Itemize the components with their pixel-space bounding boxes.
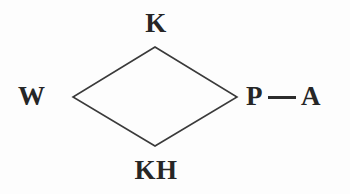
right-node-cluster: P A (246, 83, 321, 110)
node-label-left-w: W (18, 83, 46, 110)
connector-dash-icon (268, 96, 296, 99)
node-label-top-k: K (0, 10, 312, 37)
node-label-right-p: P (246, 83, 263, 110)
diagram-canvas: K W KH P A (0, 0, 350, 194)
node-label-bottom-kh: KH (0, 157, 312, 184)
diamond-outline (73, 47, 237, 146)
node-label-external-a: A (301, 83, 321, 110)
